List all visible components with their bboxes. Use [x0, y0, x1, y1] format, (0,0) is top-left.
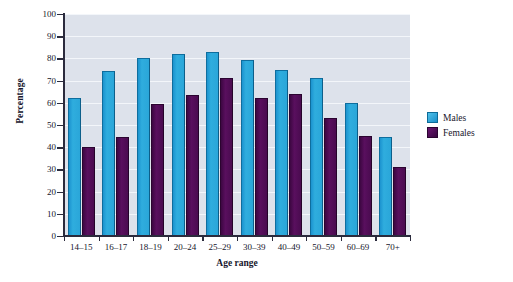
y-axis-tick	[57, 169, 63, 170]
bar-females-14-15	[82, 147, 95, 236]
x-axis-tick-label: 30–39	[243, 242, 266, 252]
y-axis-tick	[57, 125, 63, 126]
y-axis-tick	[57, 103, 63, 104]
legend-swatch-females-icon	[427, 127, 438, 138]
gridline	[64, 81, 410, 82]
gridline	[64, 125, 410, 126]
bar-males-70+	[379, 137, 392, 236]
gridline	[64, 14, 410, 15]
bar-chart: Percentage 0102030405060708090100 Age ra…	[0, 0, 513, 282]
bar-males-20-24	[172, 54, 185, 236]
x-axis-tick	[202, 236, 203, 241]
gridline	[64, 36, 410, 37]
x-axis-tick	[64, 236, 65, 241]
x-axis-tick	[133, 236, 134, 241]
legend-item-females: Females	[427, 127, 507, 138]
bar-males-14-15	[68, 98, 81, 236]
bar-females-30-39	[255, 98, 268, 236]
y-axis-tick-label: 50	[16, 120, 56, 130]
gridline	[64, 58, 410, 59]
bar-females-25-29	[220, 78, 233, 236]
x-axis-tick-label: 40–49	[278, 242, 301, 252]
bar-females-18-19	[151, 104, 164, 236]
bar-males-25-29	[206, 52, 219, 236]
x-axis-tick-label: 20–24	[174, 242, 197, 252]
legend-swatch-males-icon	[427, 112, 438, 123]
bar-males-50-59	[310, 78, 323, 236]
x-axis-tick	[375, 236, 376, 241]
x-axis-tick	[99, 236, 100, 241]
gridline	[64, 103, 410, 104]
y-axis-tick	[57, 58, 63, 59]
y-axis-tick	[57, 236, 63, 237]
x-axis-tick	[410, 236, 411, 241]
y-axis-tick	[57, 81, 63, 82]
y-axis-tick-label: 20	[16, 187, 56, 197]
legend-item-males: Males	[427, 112, 507, 123]
bar-males-18-19	[137, 58, 150, 236]
x-axis-tick-label: 25–29	[208, 242, 231, 252]
x-axis-tick-label: 18–19	[139, 242, 162, 252]
plot-area	[64, 14, 410, 236]
x-axis-tick-label: 16–17	[105, 242, 128, 252]
x-axis-tick-label: 70+	[386, 242, 400, 252]
x-axis-tick	[168, 236, 169, 241]
x-axis-tick	[237, 236, 238, 241]
y-axis-tick-label: 40	[16, 142, 56, 152]
y-axis-tick-label: 80	[16, 53, 56, 63]
y-axis-tick	[57, 14, 63, 15]
y-axis-tick	[57, 192, 63, 193]
x-axis-title: Age range	[64, 258, 410, 268]
y-axis-tick-label: 10	[16, 209, 56, 219]
bar-males-40-49	[275, 70, 288, 237]
bar-males-16-17	[102, 71, 115, 236]
bar-females-40-49	[289, 94, 302, 236]
legend-label-males: Males	[443, 113, 466, 123]
y-axis-tick-label: 90	[16, 31, 56, 41]
legend: Males Females	[427, 112, 507, 142]
y-axis-tick-label: 0	[16, 231, 56, 241]
x-axis-tick-label: 60–69	[347, 242, 370, 252]
bar-females-50-59	[324, 118, 337, 236]
y-axis-tick-labels: 0102030405060708090100	[8, 0, 56, 282]
bar-females-20-24	[186, 95, 199, 236]
bar-females-60-69	[359, 136, 372, 236]
bar-females-16-17	[116, 137, 129, 236]
legend-label-females: Females	[443, 128, 475, 138]
y-axis-tick	[57, 147, 63, 148]
y-axis-tick-label: 100	[16, 9, 56, 19]
x-axis-tick	[272, 236, 273, 241]
bar-males-60-69	[345, 103, 358, 236]
y-axis-tick-label: 60	[16, 98, 56, 108]
y-axis-tick-label: 30	[16, 164, 56, 174]
x-axis-tick-label: 14–15	[70, 242, 93, 252]
bar-females-70+	[393, 167, 406, 236]
x-axis-tick	[341, 236, 342, 241]
x-axis-tick	[306, 236, 307, 241]
bar-males-30-39	[241, 60, 254, 236]
y-axis-line	[63, 13, 65, 237]
y-axis-tick-label: 70	[16, 76, 56, 86]
y-axis-tick	[57, 214, 63, 215]
y-axis-tick	[57, 36, 63, 37]
x-axis-tick-label: 50–59	[312, 242, 335, 252]
